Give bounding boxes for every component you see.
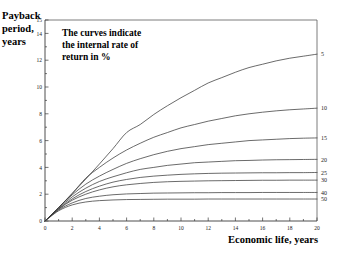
x-tick-label: 16	[260, 225, 266, 231]
y-axis-title-line-2: period,	[2, 23, 34, 34]
x-tick-label: 0	[44, 225, 47, 231]
y-tick-label: 14	[37, 31, 43, 37]
y-axis-title-line-1: Payback	[2, 10, 41, 21]
chart-canvas: Payback period, years The curves indicat…	[0, 0, 338, 255]
y-axis-title-line-3: years	[2, 36, 26, 47]
y-tick-label: 10	[37, 84, 43, 90]
x-tick-label: 8	[152, 225, 155, 231]
y-tick-label: 0	[39, 218, 42, 224]
series-label-15: 15	[321, 135, 327, 141]
x-tick-label: 4	[98, 225, 101, 231]
x-tick-label: 14	[233, 225, 239, 231]
series-label-20: 20	[321, 157, 327, 163]
x-axis-title: Economic life, years	[228, 234, 318, 245]
payback-period-chart: Payback period, years The curves indicat…	[0, 0, 338, 255]
y-tick-label: 6	[39, 138, 42, 144]
series-label-10: 10	[321, 105, 327, 111]
y-tick-label: 2	[39, 191, 42, 197]
series-label-30: 30	[321, 177, 327, 183]
x-tick-label: 18	[287, 225, 293, 231]
annotation-line-2: the internal rate of	[62, 40, 139, 50]
series-label-25: 25	[321, 170, 327, 176]
y-tick-label: 4	[39, 165, 42, 171]
x-tick-label: 20	[314, 225, 320, 231]
series-label-50: 50	[321, 196, 327, 202]
annotation-line-1: The curves indicate	[62, 28, 141, 38]
x-tick-label: 10	[178, 225, 184, 231]
y-tick-label: 15	[37, 17, 43, 23]
y-tick-label: 12	[37, 57, 43, 63]
y-tick-label: 8	[39, 111, 42, 117]
x-tick-label: 12	[205, 225, 211, 231]
series-label-5: 5	[321, 51, 324, 57]
x-tick-label: 6	[125, 225, 128, 231]
x-tick-label: 2	[71, 225, 74, 231]
annotation-line-3: return in %	[62, 52, 110, 62]
series-label-40: 40	[321, 190, 327, 196]
